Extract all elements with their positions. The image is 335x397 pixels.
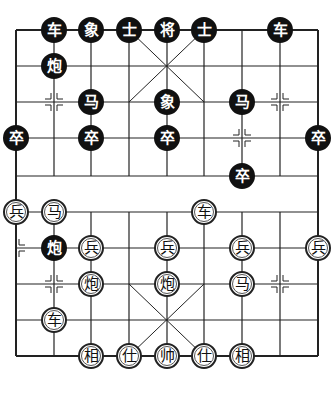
red-piece-兵[interactable]: 兵 [229, 235, 255, 261]
red-piece-兵[interactable]: 兵 [78, 235, 104, 261]
red-piece-炮[interactable]: 炮 [154, 271, 180, 297]
black-piece-象[interactable]: 象 [78, 17, 104, 43]
red-piece-相[interactable]: 相 [78, 343, 104, 369]
red-piece-车[interactable]: 车 [191, 199, 217, 225]
black-piece-马[interactable]: 马 [229, 89, 255, 115]
black-piece-马[interactable]: 马 [78, 89, 104, 115]
red-piece-兵[interactable]: 兵 [305, 235, 331, 261]
red-piece-马[interactable]: 马 [229, 271, 255, 297]
red-piece-兵[interactable]: 兵 [154, 235, 180, 261]
black-piece-卒[interactable]: 卒 [154, 125, 180, 151]
red-piece-车[interactable]: 车 [41, 307, 67, 333]
red-piece-仕[interactable]: 仕 [191, 343, 217, 369]
black-piece-象[interactable]: 象 [154, 89, 180, 115]
black-piece-车[interactable]: 车 [41, 17, 67, 43]
red-piece-兵[interactable]: 兵 [3, 199, 29, 225]
black-piece-卒[interactable]: 卒 [305, 125, 331, 151]
red-piece-炮[interactable]: 炮 [78, 271, 104, 297]
black-piece-车[interactable]: 车 [267, 17, 293, 43]
black-piece-卒[interactable]: 卒 [229, 163, 255, 189]
black-piece-卒[interactable]: 卒 [3, 125, 29, 151]
red-piece-帅[interactable]: 帅 [154, 343, 180, 369]
red-piece-仕[interactable]: 仕 [116, 343, 142, 369]
red-piece-相[interactable]: 相 [229, 343, 255, 369]
black-piece-士[interactable]: 士 [116, 17, 142, 43]
black-piece-炮[interactable]: 炮 [41, 235, 67, 261]
red-piece-马[interactable]: 马 [41, 199, 67, 225]
black-piece-将[interactable]: 将 [154, 17, 180, 43]
black-piece-士[interactable]: 士 [191, 17, 217, 43]
black-piece-炮[interactable]: 炮 [41, 53, 67, 79]
black-piece-卒[interactable]: 卒 [78, 125, 104, 151]
